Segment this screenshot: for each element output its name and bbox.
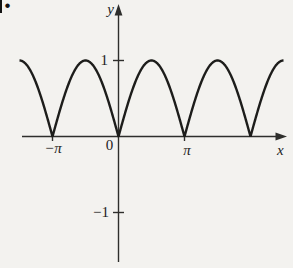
x-axis-label: x: [277, 143, 284, 158]
y-axis-arrowhead: [115, 4, 123, 16]
y-axis-label: y: [99, 2, 114, 17]
abs-sine-curve: [20, 61, 284, 136]
axes-and-curve-canvas: [0, 0, 293, 268]
plot-figure: . y x 1 −1 −π 0 π: [0, 0, 293, 268]
y-tick-label-neg1: −1: [87, 205, 109, 220]
y-tick-label-1: 1: [94, 53, 108, 68]
x-axis-arrowhead: [276, 133, 288, 141]
x-tick-label-pi: π: [179, 143, 195, 158]
x-tick-label-negpi: −π: [40, 141, 66, 156]
origin-label: 0: [102, 138, 117, 153]
